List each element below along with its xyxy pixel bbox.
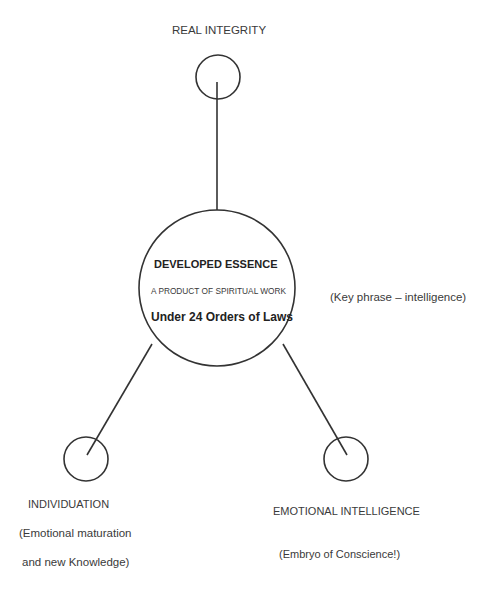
center-title: DEVELOPED ESSENCE <box>154 258 277 270</box>
label-emotional-intelligence: EMOTIONAL INTELLIGENCE <box>273 505 420 517</box>
individuation-note-line2: and new Knowledge) <box>22 556 129 568</box>
node-right-circle <box>324 437 368 481</box>
center-line3: Under 24 Orders of Laws <box>151 310 293 324</box>
diagram-canvas <box>0 0 500 611</box>
label-individuation: INDIVIDUATION <box>28 498 109 510</box>
center-subtitle: A PRODUCT OF SPIRITUAL WORK <box>151 286 286 296</box>
emotional-intelligence-note: (Embryo of Conscience!) <box>279 548 400 560</box>
node-top-circle <box>196 55 240 99</box>
node-left-circle <box>64 437 108 481</box>
side-note: (Key phrase – intelligence) <box>330 291 466 303</box>
label-real-integrity: REAL INTEGRITY <box>172 24 266 36</box>
individuation-note-line1: (Emotional maturation <box>19 527 132 539</box>
connector-left <box>87 344 152 455</box>
